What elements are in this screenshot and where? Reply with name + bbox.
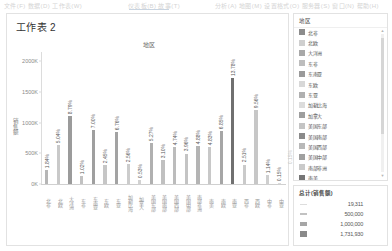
- scroll-up-arrow[interactable]: ▲: [380, 28, 385, 33]
- x-tick-label: 美国东部: [146, 186, 158, 220]
- bar[interactable]: [278, 183, 281, 184]
- bar-column[interactable]: 0.15%: [274, 52, 286, 184]
- bar-value-label: 3.10%: [160, 144, 166, 158]
- menubar-ghost-left: 文件(F) 数据(D) 工作表(W): [4, 1, 82, 10]
- bar-column[interactable]: 7.00%: [88, 52, 100, 184]
- bar[interactable]: [266, 175, 269, 184]
- bar[interactable]: [196, 146, 199, 184]
- x-tick-label: 中非: [262, 186, 274, 220]
- bar-column[interactable]: 1.02%: [76, 52, 88, 184]
- x-tick-label: 西欧: [250, 186, 262, 220]
- bar-value-label: 4.83%: [207, 131, 213, 145]
- legend-color-swatch: [299, 71, 305, 77]
- legend-color-swatch: [299, 60, 305, 66]
- bar[interactable]: [161, 160, 164, 184]
- legend-item[interactable]: 东非: [294, 58, 380, 68]
- bar-column[interactable]: 13.78%: [227, 52, 239, 184]
- size-legend-mark: [300, 222, 307, 226]
- size-legend-item[interactable]: 500,000: [294, 209, 387, 219]
- bar[interactable]: [254, 110, 257, 184]
- bar-column[interactable]: 5.04%: [53, 52, 65, 184]
- legend-item-label: 美国东部: [308, 122, 327, 129]
- bar[interactable]: [68, 116, 71, 184]
- bar-column[interactable]: 3.96%: [181, 52, 193, 184]
- bar-column[interactable]: 2.56%: [122, 52, 134, 184]
- bar-value-label: 8.79%: [67, 100, 73, 114]
- legend-color-swatch: [299, 50, 305, 56]
- legend-item[interactable]: 加拿大: [294, 110, 380, 120]
- bar[interactable]: [220, 131, 223, 184]
- bar[interactable]: [150, 143, 153, 184]
- bar-column[interactable]: 6.85%: [215, 52, 227, 184]
- x-axis-line: [41, 184, 286, 185]
- bar[interactable]: [231, 78, 234, 184]
- bar-column[interactable]: 1.14%: [262, 52, 274, 184]
- x-tick-label: 西非: [239, 186, 251, 220]
- bar[interactable]: [208, 147, 211, 184]
- size-legend-item[interactable]: 1,731,930: [294, 229, 387, 239]
- color-legend-items: 北非北欧大洋洲东非东南亚东欧东亚加勒比海加拿大美国东部美国南部美国西部美国中部南…: [294, 27, 380, 180]
- x-tick-label: 南美: [204, 186, 216, 220]
- bar[interactable]: [80, 176, 83, 184]
- x-tick-label: 美国南部: [157, 186, 169, 220]
- bar-column[interactable]: 4.74%: [169, 52, 181, 184]
- bar-column[interactable]: 5.27%: [146, 52, 158, 184]
- legend-item[interactable]: 北欧: [294, 37, 380, 47]
- legend-item[interactable]: 美国南部: [294, 131, 380, 141]
- bar[interactable]: [45, 170, 48, 184]
- color-legend-card: 地区 北非北欧大洋洲东非东南亚东欧东亚加勒比海加拿大美国东部美国南部美国西部美国…: [293, 13, 388, 181]
- bar[interactable]: [57, 145, 60, 184]
- bar-column[interactable]: 1.84%: [41, 52, 53, 184]
- x-tick-label: 加拿大: [134, 186, 146, 220]
- scroll-down-arrow[interactable]: ▼: [380, 173, 385, 178]
- bar[interactable]: [103, 165, 106, 184]
- size-legend-mark: [300, 204, 307, 205]
- legend-item-label: 东非: [308, 60, 317, 67]
- bar[interactable]: [92, 130, 95, 184]
- x-tick-label: 美国中部: [181, 186, 193, 220]
- size-legend-item[interactable]: 1,000,000: [294, 219, 387, 229]
- legend-item[interactable]: 大洋洲: [294, 48, 380, 58]
- x-tick-label: 南欧: [215, 186, 227, 220]
- bar-column[interactable]: 4.83%: [204, 52, 216, 184]
- legend-item[interactable]: 南美: [294, 172, 380, 180]
- x-tick-label: 南亚: [227, 186, 239, 220]
- bar[interactable]: [115, 132, 118, 184]
- legend-item[interactable]: 北非: [294, 27, 380, 37]
- menubar-ghost-right: 分析(A) 地图(M) 设置格式(O) 服务器(S) 窗口(N) 帮助(H): [215, 1, 379, 10]
- bar-column[interactable]: 8.79%: [64, 52, 76, 184]
- legend-item[interactable]: 美国西部: [294, 141, 380, 151]
- legend-item[interactable]: 东欧: [294, 79, 380, 89]
- legend-item-label: 南美: [308, 174, 317, 180]
- bar-column[interactable]: 4.88%: [192, 52, 204, 184]
- legend-item[interactable]: 东南亚: [294, 69, 380, 79]
- bar-value-label: 6.85%: [218, 115, 224, 129]
- legend-item[interactable]: 美国东部: [294, 121, 380, 131]
- bar[interactable]: [127, 164, 130, 184]
- legend-item[interactable]: 南部非洲: [294, 162, 380, 172]
- bar[interactable]: [243, 165, 246, 184]
- legend-item-label: 美国南部: [308, 133, 327, 140]
- bar-column[interactable]: 9.56%: [250, 52, 262, 184]
- x-tick-label: 东南亚: [88, 186, 100, 220]
- window-menubar-ghost: 文件(F) 数据(D) 工作表(W) 仪表板(B) 故事(T) 分析(A) 地图…: [0, 0, 392, 11]
- bar-column[interactable]: 2.45%: [99, 52, 111, 184]
- scrollbar-thumb[interactable]: [381, 38, 384, 134]
- legend-item[interactable]: 东亚: [294, 89, 380, 99]
- legend-scrollbar[interactable]: ▲ ▼: [380, 28, 385, 178]
- size-legend-item[interactable]: 19,311: [294, 199, 387, 209]
- bar-value-label: 5.27%: [148, 127, 154, 141]
- legend-item-label: 加勒比海: [308, 101, 327, 108]
- bar-column[interactable]: 2.51%: [239, 52, 251, 184]
- bar[interactable]: [185, 154, 188, 185]
- bar-column[interactable]: 3.10%: [157, 52, 169, 184]
- legend-item[interactable]: 美国中部: [294, 152, 380, 162]
- legend-item[interactable]: 加勒比海: [294, 100, 380, 110]
- legend-color-swatch: [299, 133, 305, 139]
- worksheet-panel: 工作表 2 地区 销售额 0K500K1000K1500K2000K 1.84%…: [6, 13, 289, 246]
- bar-column[interactable]: 6.76%: [111, 52, 123, 184]
- bar[interactable]: [138, 180, 141, 184]
- bar-column[interactable]: 0.53%: [134, 52, 146, 184]
- y-tick-label: 2000K: [22, 58, 38, 64]
- bar[interactable]: [173, 147, 176, 184]
